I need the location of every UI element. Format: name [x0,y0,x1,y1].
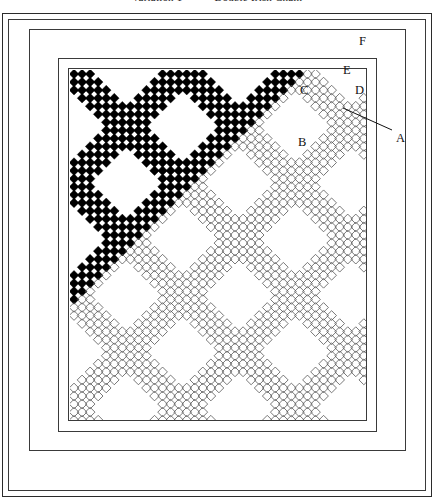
figure-title: Variation 1 Double Irish Chain [0,0,434,3]
label-e: E [343,64,351,77]
label-a: A [396,132,405,145]
quilt-diagram-figure: Variation 1 Double Irish Chain A B C D E… [0,0,434,499]
double-irish-chain-pattern [70,70,366,420]
figure-title-main: Double Irish Chain [214,0,302,3]
label-f: F [359,35,366,48]
label-c: C [300,84,308,97]
label-d: D [355,84,364,97]
quilt-pattern-area [70,70,366,420]
label-b: B [298,136,306,149]
figure-title-prefix: Variation 1 [132,0,183,3]
